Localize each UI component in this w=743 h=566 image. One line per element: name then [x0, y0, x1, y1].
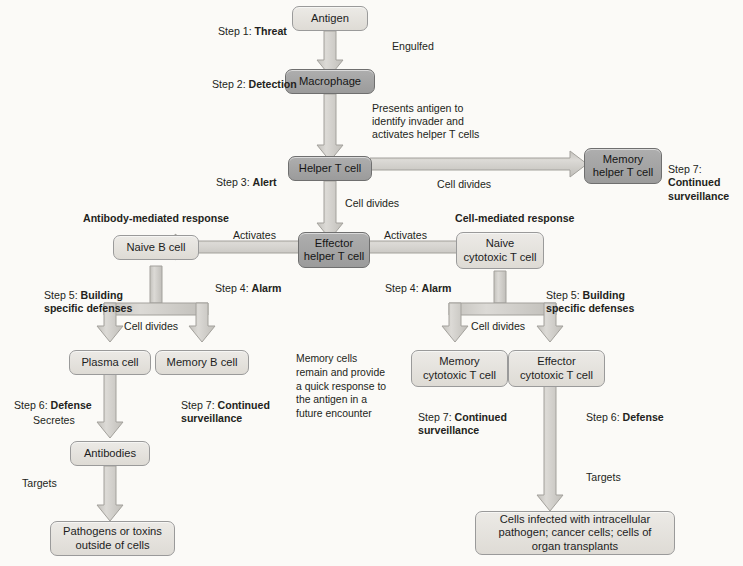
arrow-helper-to-memory-helper: [370, 151, 587, 177]
step-label-4-right: Step 4: Alarm: [385, 269, 452, 295]
diagram-canvas: Antigen Macrophage Helper T cell Memory …: [0, 0, 743, 566]
edge-label-cell-divides-effector-helper: Cell divides: [345, 197, 399, 210]
arrow-naive-ctl-trunk: [494, 271, 506, 303]
node-effector-cytotoxic-t-cell[interactable]: Effector cytotoxic T cell: [508, 350, 605, 387]
step-7-top-name: Continued surveillance: [668, 176, 729, 201]
step-label-6-left: Step 6: Defense: [14, 386, 92, 412]
arrow-antibodies-to-pathogens: [97, 466, 123, 521]
step-2-prefix: Step 2:: [212, 78, 249, 90]
step-6-right-prefix: Step 6:: [586, 411, 623, 423]
step-label-5-left: Step 5: Building specific defenses: [44, 276, 132, 316]
step-1-name: Threat: [255, 25, 287, 37]
step-label-6-right: Step 6: Defense: [586, 398, 664, 424]
step-2-name: Detection: [249, 78, 297, 90]
arrow-naive-b-trunk: [150, 266, 162, 303]
edge-label-secretes: Secretes: [33, 414, 75, 427]
edge-label-activates-left: Activates: [233, 229, 276, 242]
node-helper-t-cell[interactable]: Helper T cell: [288, 156, 372, 181]
step-label-7-memory-helper: Step 7: Continued surveillance: [668, 150, 743, 203]
step-label-1: Step 1: Threat: [218, 12, 287, 38]
edge-label-presents-antigen: Presents antigen to identify invader and…: [372, 102, 479, 142]
step-label-2: Step 2: Detection: [212, 65, 297, 91]
step-6-right-name: Defense: [623, 411, 664, 423]
step-7-right-prefix: Step 7:: [418, 411, 455, 423]
edge-label-engulfed: Engulfed: [392, 40, 434, 53]
node-effector-helper-t-cell[interactable]: Effector helper T cell: [298, 232, 370, 268]
heading-antibody-mediated-response: Antibody-mediated response: [83, 212, 229, 225]
edge-label-targets-right: Targets: [586, 471, 621, 484]
arrow-effector-ctl-to-targets: [537, 382, 563, 511]
edge-label-targets-left: Targets: [22, 477, 57, 490]
arrow-naive-ctl-split-bar: [449, 303, 556, 315]
step-6-left-prefix: Step 6:: [14, 399, 51, 411]
arrow-macrophage-to-helper: [317, 94, 343, 161]
step-label-3: Step 3: Alert: [216, 163, 277, 189]
edge-label-cell-divides-b: Cell divides: [124, 320, 178, 333]
note-memory-cells: Memory cells remain and provide a quick …: [296, 352, 420, 421]
node-naive-cytotoxic-t-cell[interactable]: Naive cytotoxic T cell: [456, 232, 544, 269]
step-6-left-name: Defense: [51, 399, 92, 411]
node-infected-cells[interactable]: Cells infected with intracellular pathog…: [475, 511, 675, 555]
step-3-name: Alert: [253, 176, 277, 188]
node-antibodies[interactable]: Antibodies: [70, 441, 150, 466]
step-label-4-left: Step 4: Alarm: [215, 269, 282, 295]
step-4-right-name: Alarm: [422, 282, 452, 294]
arrow-plasma-to-antibodies: [97, 374, 123, 438]
step-3-prefix: Step 3:: [216, 176, 253, 188]
edge-label-cell-divides-t: Cell divides: [471, 320, 525, 333]
node-antigen[interactable]: Antigen: [292, 6, 368, 31]
step-4-right-prefix: Step 4:: [385, 282, 422, 294]
edge-label-activates-right: Activates: [384, 229, 427, 242]
node-memory-helper-t-cell[interactable]: Memory helper T cell: [584, 148, 662, 184]
step-4-left-prefix: Step 4:: [215, 282, 252, 294]
step-1-prefix: Step 1:: [218, 25, 255, 37]
step-7-left-prefix: Step 7:: [181, 399, 218, 411]
step-label-7-memory-ctl: Step 7: Continued surveillance: [418, 398, 507, 438]
node-memory-cytotoxic-t-cell[interactable]: Memory cytotoxic T cell: [411, 350, 508, 387]
arrow-helper-to-effector: [317, 181, 343, 239]
node-plasma-cell[interactable]: Plasma cell: [69, 350, 151, 375]
step-5-left-prefix: Step 5:: [44, 289, 81, 301]
node-pathogens-or-toxins[interactable]: Pathogens or toxins outside of cells: [50, 521, 175, 556]
step-label-7-memory-b: Step 7: Continued surveillance: [181, 386, 270, 426]
step-4-left-name: Alarm: [252, 282, 282, 294]
node-naive-b-cell[interactable]: Naive B cell: [113, 235, 199, 260]
step-7-top-prefix: Step 7:: [668, 163, 702, 175]
heading-cell-mediated-response: Cell-mediated response: [455, 212, 575, 225]
node-memory-b-cell[interactable]: Memory B cell: [155, 350, 249, 375]
step-label-5-right: Step 5: Building specific defenses: [546, 276, 634, 316]
step-5-right-prefix: Step 5:: [546, 289, 583, 301]
node-macrophage[interactable]: Macrophage: [285, 69, 375, 94]
edge-label-cell-divides-memory-helper: Cell divides: [437, 178, 491, 191]
